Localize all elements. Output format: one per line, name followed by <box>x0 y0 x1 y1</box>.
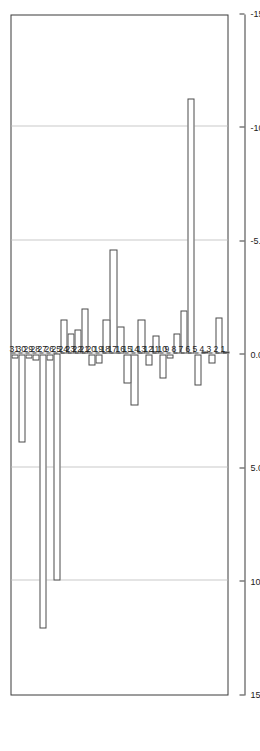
category-label-6: 6 <box>185 345 190 354</box>
bar-27[interactable] <box>39 354 46 629</box>
plot-area <box>10 14 228 695</box>
bar-31[interactable] <box>11 354 18 359</box>
bar-5[interactable] <box>194 354 201 386</box>
value-tick <box>239 240 244 241</box>
rotated-chart-container: 15.010.05.00.0-5.0-10.0-15.0 % 123456789… <box>0 0 260 751</box>
category-label-1: 1 <box>220 345 225 354</box>
bar-3[interactable] <box>208 354 215 363</box>
value-tick <box>239 127 244 128</box>
bar-9[interactable] <box>166 354 173 359</box>
bar-25[interactable] <box>53 354 60 581</box>
category-label-2: 2 <box>213 345 218 354</box>
bar-17[interactable] <box>109 249 116 353</box>
gridline <box>11 239 227 240</box>
bar-28[interactable] <box>32 354 39 361</box>
value-tick <box>239 694 244 695</box>
category-label-8: 8 <box>171 345 176 354</box>
value-tick-label: 0.0 <box>250 350 260 359</box>
value-tick-label: 10.0 <box>250 577 260 586</box>
bar-30[interactable] <box>18 354 25 443</box>
bar-29[interactable] <box>25 354 32 359</box>
value-tick-label: -5.0 <box>250 237 260 246</box>
bar-12[interactable] <box>145 354 152 365</box>
category-label-3: 3 <box>206 345 211 354</box>
category-label-31: 31 <box>9 345 18 354</box>
value-tick <box>239 13 244 14</box>
bar-6[interactable] <box>187 98 194 353</box>
value-tick <box>239 354 244 355</box>
bar-15[interactable] <box>123 354 130 384</box>
value-tick <box>239 467 244 468</box>
category-label-7: 7 <box>178 345 183 354</box>
category-label-5: 5 <box>192 345 197 354</box>
bar-20[interactable] <box>88 354 95 365</box>
value-tick-label: -10.0 <box>250 123 260 132</box>
bar-19[interactable] <box>95 354 102 363</box>
gridline <box>11 126 227 127</box>
value-tick <box>239 581 244 582</box>
bar-26[interactable] <box>46 354 53 361</box>
category-label-4: 4 <box>199 345 204 354</box>
value-tick-label: 5.0 <box>250 464 260 473</box>
bar-14[interactable] <box>130 354 137 405</box>
value-tick-label: 15.0 <box>250 691 260 700</box>
value-tick-label: -15.0 <box>250 10 260 19</box>
bar-10[interactable] <box>159 354 166 379</box>
chart-canvas: 15.010.05.00.0-5.0-10.0-15.0 % 123456789… <box>0 0 260 751</box>
